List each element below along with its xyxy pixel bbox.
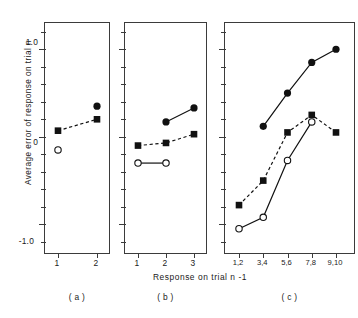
panel-caption-b: ( b ) [124,292,207,302]
data-point-filled-circle [284,89,291,96]
data-point-open-circle [163,160,169,166]
data-point-open-circle [55,147,61,153]
data-point-filled-circle [93,103,100,110]
panel-a [44,22,110,254]
plot-area [225,23,356,255]
panel-b [124,22,207,254]
series-line-filled-square [58,119,97,130]
x-tick-label: 2 [82,258,110,268]
data-point-filled-square [333,129,340,136]
data-point-open-circle [309,119,315,125]
data-point-open-circle [135,160,141,166]
panel-caption-a: ( a ) [44,292,110,302]
data-point-open-circle [236,226,242,232]
data-point-filled-circle [332,46,339,53]
plot-area [125,23,208,255]
data-point-filled-square [135,142,142,149]
x-tick-label: 1 [43,258,71,268]
data-point-filled-square [163,140,170,147]
data-point-filled-circle [162,118,169,125]
series-line-open-circle [239,122,312,229]
plot-area [45,23,111,255]
x-tick-label: 9,10 [321,258,349,267]
y-tick-label-1: 1.0 [12,37,38,47]
data-point-filled-square [284,129,291,136]
panel-c [224,22,355,254]
x-tick-label: 3 [179,258,207,268]
figure-root: Average error of response on trial n 1.0… [0,0,358,318]
x-tick-label: 1 [123,258,151,268]
data-point-filled-square [308,112,315,119]
data-point-filled-square [260,177,267,184]
data-point-filled-circle [190,104,197,111]
x-axis-label: Response on trial n -1 [110,272,290,282]
data-point-filled-square [94,116,101,123]
series-line-filled-circle [166,108,194,122]
y-tick-label-0: 0 [12,137,38,147]
data-point-open-circle [260,214,266,220]
data-point-filled-square [191,131,198,138]
series-line-filled-circle [263,49,336,126]
x-tick-label: 2 [151,258,179,268]
data-point-filled-circle [308,59,315,66]
data-point-open-circle [284,157,290,163]
data-point-filled-circle [260,123,267,130]
y-tick-label-minus1: -1.0 [8,236,34,246]
data-point-filled-square [55,127,62,134]
data-point-filled-square [236,202,243,209]
y-axis-label: Average error of response on trial n [24,0,33,233]
panel-caption-c: ( c ) [224,292,355,302]
